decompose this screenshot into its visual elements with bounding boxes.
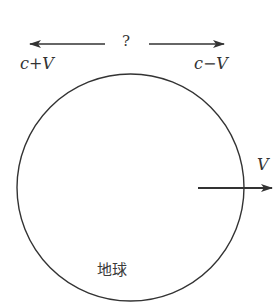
- question-mark: ?: [122, 32, 130, 50]
- right-speed-label: c−V: [194, 54, 229, 73]
- velocity-label: V: [257, 155, 270, 174]
- earth-label: 地球: [97, 261, 127, 279]
- left-speed-label: c+V: [20, 54, 55, 73]
- diagram-canvas: ? c+V c−V V 地球: [0, 0, 278, 303]
